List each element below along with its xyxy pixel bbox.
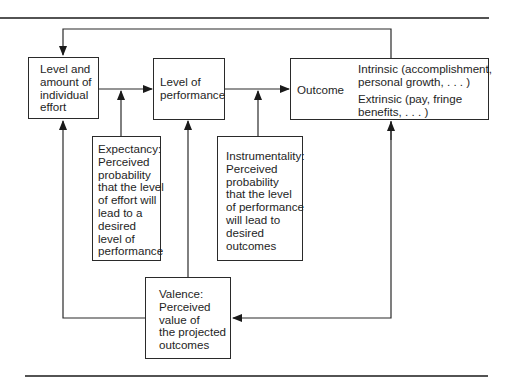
valence-box-label: Valence: Perceived value of the projecte… <box>159 288 226 352</box>
intrinsic-outcome-label: Intrinsic (accomplishment, personal grow… <box>358 63 492 89</box>
outcome-label: Outcome <box>297 84 344 97</box>
extrinsic-outcome-label: Extrinsic (pay, fringe benefits, . . . ) <box>358 93 462 119</box>
performance-box-label: Level of performance <box>160 76 225 102</box>
instrumentality-box-label: Instrumentality: Perceived probability t… <box>226 150 305 252</box>
effort-box-label: Level and amount of individual effort <box>40 63 92 114</box>
feedback-arrow <box>63 29 391 58</box>
expectancy-box-label: Expectancy: Perceived probability that t… <box>98 143 164 258</box>
